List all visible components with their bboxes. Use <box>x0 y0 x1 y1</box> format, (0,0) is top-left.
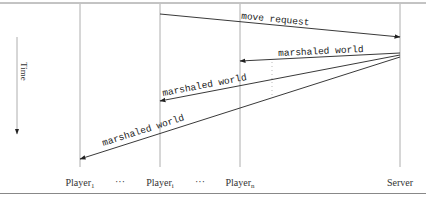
time-axis: Time <box>17 37 29 134</box>
sequence-diagram: Time move request marshaled world marsha… <box>0 0 426 197</box>
participant-ellipsis-2: ··· <box>195 176 205 187</box>
participant-playern: Playern <box>225 177 255 190</box>
message-label: move request <box>241 11 310 29</box>
message-label: marshaled world <box>162 72 248 99</box>
message-label: marshaled world <box>278 44 364 59</box>
message-move-request: move request <box>160 11 400 37</box>
participant-player1: Player1 <box>65 177 95 190</box>
participant-playeri: Playeri <box>146 177 174 190</box>
message-marshaled-world-i: marshaled world <box>160 55 400 101</box>
participant-server: Server <box>387 177 414 188</box>
participant-ellipsis-1: ··· <box>115 176 125 187</box>
message-marshaled-world-n: marshaled world <box>240 44 400 61</box>
time-axis-label: Time <box>19 62 29 81</box>
message-label: marshaled world <box>101 112 186 148</box>
